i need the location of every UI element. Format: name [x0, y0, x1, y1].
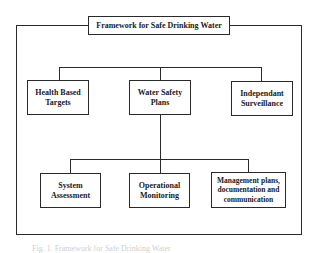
box-label: Independant Surveillance [234, 89, 290, 109]
connector-surveillance [261, 67, 262, 81]
title-box: Framework for Safe Drinking Water [88, 16, 230, 35]
title-label: Framework for Safe Drinking Water [96, 21, 221, 31]
box-management-plans: Management plans, documentation and comm… [211, 172, 286, 208]
box-system-assessment: System Assessment [40, 173, 101, 208]
box-operational-monitoring: Operational Monitoring [129, 173, 190, 208]
connector-system-assessment [70, 159, 71, 173]
connector-operational-monitoring [160, 159, 161, 173]
connector-water-safety [160, 67, 161, 80]
connector-health-targets [59, 67, 60, 80]
box-label: Water Safety Plans [132, 88, 188, 108]
box-label: Management plans, documentation and comm… [214, 176, 283, 205]
box-health-based-targets: Health Based Targets [27, 80, 89, 115]
connector-management-plans [248, 159, 249, 172]
box-water-safety-plans: Water Safety Plans [129, 80, 191, 115]
figure-caption: Fig. 1. Framework for Safe Drinking Wate… [32, 244, 171, 253]
box-independant-surveillance: Independant Surveillance [231, 81, 293, 116]
box-label: Health Based Targets [30, 88, 86, 108]
connector-wsp-down [160, 115, 161, 160]
box-label: System Assessment [43, 181, 98, 201]
box-label: Operational Monitoring [132, 181, 187, 201]
